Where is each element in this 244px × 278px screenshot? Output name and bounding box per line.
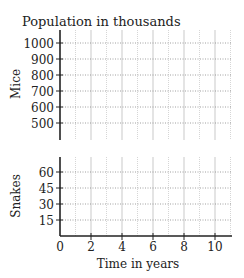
x-tick-label: 8: [180, 240, 188, 254]
snakes-tick-label: 60: [39, 166, 54, 180]
chart-title: Population in thousands: [22, 14, 181, 29]
snakes-tick-label: 30: [39, 198, 54, 212]
snakes-axis-label: Snakes: [9, 174, 23, 218]
mice-tick-label: 800: [31, 69, 54, 83]
x-axis-label: Time in years: [97, 257, 179, 271]
x-tick-label: 0: [56, 240, 64, 254]
snakes-tick-label: 45: [39, 182, 54, 196]
x-tick-label: 10: [207, 240, 222, 254]
mice-tick-label: 700: [31, 85, 54, 99]
mice-axis-label: Mice: [9, 69, 23, 99]
mice-tick-label: 900: [31, 53, 54, 67]
mice-tick-label: 500: [31, 117, 54, 131]
mice-tick-label: 600: [31, 101, 54, 115]
x-tick-label: 2: [87, 240, 95, 254]
x-tick-label: 6: [149, 240, 157, 254]
snakes-tick-label: 15: [39, 214, 54, 228]
mice-tick-label: 1000: [23, 37, 54, 51]
x-tick-label: 4: [118, 240, 126, 254]
population-chart: Population in thousands50060070080090010…: [0, 0, 244, 278]
